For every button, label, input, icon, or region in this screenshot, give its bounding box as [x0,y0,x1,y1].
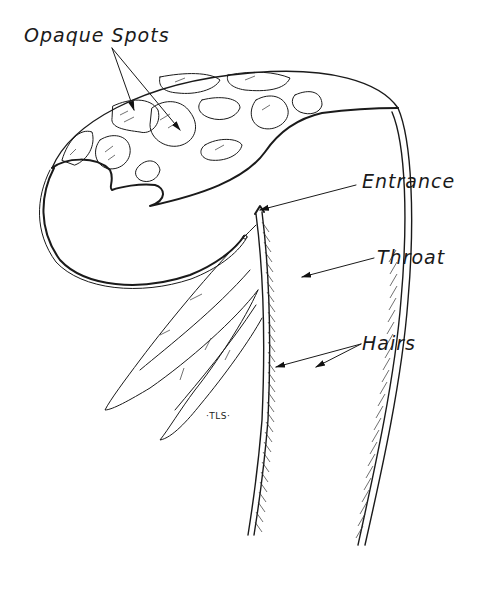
throat [248,206,397,538]
label-throat: Throat [377,246,445,268]
botanical-illustration: Opaque Spots Entrance Throat Hairs ·TLS· [0,0,487,598]
hood [39,71,411,545]
fishtail-appendage [105,225,262,440]
illustration-drawing [0,0,487,598]
label-entrance: Entrance [362,170,455,192]
artist-signature: ·TLS· [206,411,230,421]
opaque-spots [62,72,322,181]
label-hairs: Hairs [362,332,416,354]
label-opaque-spots: Opaque Spots [24,24,170,46]
